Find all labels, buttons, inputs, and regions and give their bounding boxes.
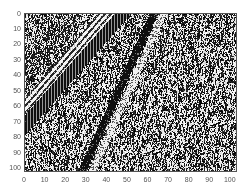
plot-image bbox=[24, 13, 236, 171]
y-tick-label: 30 bbox=[3, 56, 21, 63]
y-tick-mark bbox=[24, 13, 26, 14]
y-tick-mark bbox=[24, 75, 26, 76]
x-tick-mark bbox=[189, 169, 190, 171]
x-tick-mark bbox=[65, 169, 66, 171]
x-tick-mark bbox=[24, 169, 25, 171]
y-tick-mark bbox=[24, 90, 26, 91]
y-tick-mark bbox=[24, 59, 26, 60]
x-tick-label: 0 bbox=[14, 176, 34, 183]
y-tick-label: 10 bbox=[3, 25, 21, 32]
x-tick-label: 30 bbox=[76, 176, 96, 183]
x-tick-mark bbox=[106, 169, 107, 171]
y-tick-mark bbox=[24, 28, 26, 29]
y-tick-label: 70 bbox=[3, 118, 21, 125]
x-tick-mark bbox=[168, 169, 169, 171]
y-tick-mark bbox=[24, 121, 26, 122]
y-tick-mark bbox=[24, 137, 26, 138]
x-tick-label: 80 bbox=[179, 176, 199, 183]
x-tick-label: 70 bbox=[158, 176, 178, 183]
y-tick-label: 100 bbox=[3, 164, 21, 171]
y-tick-mark bbox=[24, 44, 26, 45]
x-tick-label: 50 bbox=[117, 176, 137, 183]
x-tick-mark bbox=[86, 169, 87, 171]
y-tick-label: 60 bbox=[3, 102, 21, 109]
y-tick-label: 80 bbox=[3, 133, 21, 140]
x-tick-mark bbox=[230, 169, 231, 171]
x-tick-label: 20 bbox=[55, 176, 75, 183]
x-tick-label: 10 bbox=[35, 176, 55, 183]
y-tick-label: 50 bbox=[3, 87, 21, 94]
y-tick-label: 0 bbox=[3, 10, 21, 17]
x-tick-mark bbox=[45, 169, 46, 171]
x-tick-mark bbox=[127, 169, 128, 171]
y-tick-mark bbox=[24, 106, 26, 107]
x-tick-mark bbox=[147, 169, 148, 171]
y-tick-mark bbox=[24, 152, 26, 153]
y-tick-label: 90 bbox=[3, 149, 21, 156]
x-tick-mark bbox=[209, 169, 210, 171]
y-tick-label: 20 bbox=[3, 40, 21, 47]
x-tick-label: 40 bbox=[96, 176, 116, 183]
x-tick-label: 60 bbox=[137, 176, 157, 183]
x-tick-label: 90 bbox=[199, 176, 219, 183]
y-tick-label: 40 bbox=[3, 71, 21, 78]
x-tick-label: 100 bbox=[220, 176, 240, 183]
figure: 0102030405060708090100 01020304050607080… bbox=[0, 0, 249, 192]
